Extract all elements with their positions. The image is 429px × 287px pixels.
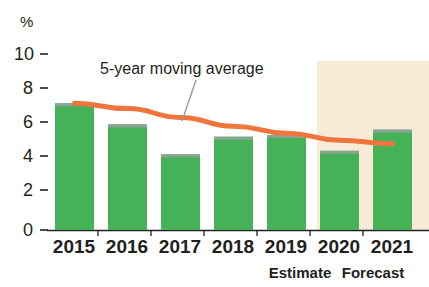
y-tick-label-2: 2 <box>23 180 33 200</box>
x-label-2021: 2021 <box>371 236 414 257</box>
y-axis-unit-label: % <box>20 13 33 30</box>
bar-chart-svg: % 10 8 6 4 2 0 <box>0 0 429 287</box>
y-tick-label-0: 0 <box>23 220 33 240</box>
bar-2018[interactable] <box>214 137 253 230</box>
x-label-2015: 2015 <box>53 236 96 257</box>
bar-2019[interactable] <box>267 135 306 230</box>
y-tick-label-4: 4 <box>23 146 33 166</box>
bar-2017[interactable] <box>161 154 200 230</box>
bar-2020[interactable] <box>320 151 359 230</box>
y-tick-label-10: 10 <box>14 44 34 64</box>
annotation-moving-average: 5-year moving average <box>100 60 264 77</box>
bar-2020-top-shade <box>320 151 359 154</box>
bar-2018-top-shade <box>214 137 253 140</box>
bar-2016[interactable] <box>108 124 147 230</box>
x-label-2019: 2019 <box>265 236 307 257</box>
bar-2016-top-shade <box>108 124 147 127</box>
x-label-2020: 2020 <box>318 236 360 257</box>
bar-2021-top-shade <box>373 130 412 133</box>
bar-2015[interactable] <box>55 103 94 230</box>
y-tick-label-8: 8 <box>23 78 33 98</box>
bar-2017-top-shade <box>161 154 200 157</box>
sublabel-forecast: Forecast <box>342 264 405 281</box>
x-label-2017: 2017 <box>159 236 201 257</box>
x-label-2018: 2018 <box>212 236 254 257</box>
sublabel-estimate: Estimate <box>269 264 332 281</box>
chart-container: % 10 8 6 4 2 0 <box>0 0 429 287</box>
y-tick-label-6: 6 <box>23 112 33 132</box>
x-label-2016: 2016 <box>106 236 148 257</box>
